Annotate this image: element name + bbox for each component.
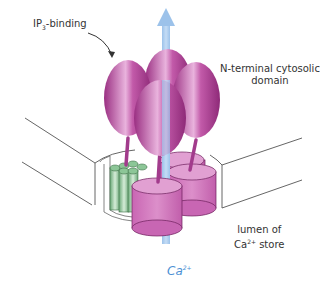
domain-front [134,80,186,156]
lumen-label: lumen of Ca2+ store [234,224,284,251]
n-terminal-label: N-terminal cytosolic domain [220,63,320,87]
calcium-ion-label: Ca2+ [167,262,192,277]
ip3-binding-label: IP3-binding [33,18,87,34]
channel-cylinder-front [132,178,182,236]
membrane-right [210,138,302,208]
